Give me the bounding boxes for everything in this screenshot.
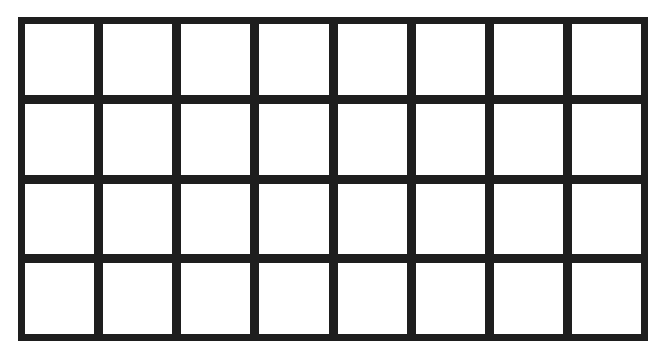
grid-cell-r1-c5 [338, 24, 407, 95]
grid-cell-r1-c2 [103, 24, 172, 95]
grid-cell-r4-c1 [25, 263, 94, 334]
grid-cell-r3-c3 [181, 184, 250, 255]
grid-cell-r4-c2 [103, 263, 172, 334]
grid-frame [18, 17, 648, 341]
grid-cell-r4-c6 [416, 263, 485, 334]
grid-cell-r3-c4 [259, 184, 328, 255]
grid-cell-r2-c6 [416, 104, 485, 175]
grid-cell-r2-c4 [259, 104, 328, 175]
grid-cell-r2-c5 [338, 104, 407, 175]
grid-cell-r2-c7 [494, 104, 563, 175]
grid-cell-r1-c4 [259, 24, 328, 95]
grid-cell-r4-c8 [572, 263, 641, 334]
grid-cell-r3-c8 [572, 184, 641, 255]
grid-cell-r1-c1 [25, 24, 94, 95]
grid-cell-r3-c6 [416, 184, 485, 255]
grid [25, 24, 641, 334]
grid-cell-r1-c8 [572, 24, 641, 95]
grid-cell-r3-c5 [338, 184, 407, 255]
grid-cell-r3-c1 [25, 184, 94, 255]
grid-cell-r3-c7 [494, 184, 563, 255]
grid-cell-r4-c3 [181, 263, 250, 334]
grid-cell-r4-c5 [338, 263, 407, 334]
grid-cell-r1-c6 [416, 24, 485, 95]
grid-cell-r2-c1 [25, 104, 94, 175]
grid-cell-r4-c7 [494, 263, 563, 334]
grid-cell-r1-c3 [181, 24, 250, 95]
grid-cell-r4-c4 [259, 263, 328, 334]
grid-cell-r2-c8 [572, 104, 641, 175]
grid-cell-r1-c7 [494, 24, 563, 95]
grid-cell-r3-c2 [103, 184, 172, 255]
grid-cell-r2-c3 [181, 104, 250, 175]
grid-cell-r2-c2 [103, 104, 172, 175]
